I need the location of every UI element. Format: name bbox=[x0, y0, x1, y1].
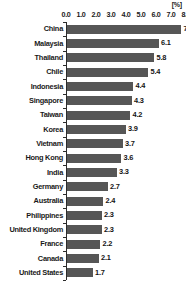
bar-value-label: 2.4 bbox=[106, 197, 116, 205]
bar-row: 2.7 bbox=[66, 182, 186, 191]
bar-row: 3.7 bbox=[66, 139, 186, 148]
bar-row: 4.2 bbox=[66, 111, 186, 120]
category-label: Malaysia bbox=[34, 40, 63, 48]
bar bbox=[67, 182, 108, 191]
bar-value-label: 5.8 bbox=[157, 54, 167, 62]
bar bbox=[67, 254, 99, 263]
y-axis-tick-mark bbox=[63, 79, 66, 80]
bar bbox=[67, 168, 117, 177]
bar bbox=[67, 268, 93, 277]
category-label: Taiwan bbox=[40, 111, 63, 119]
category-label: Philippines bbox=[26, 212, 63, 220]
bar bbox=[67, 211, 102, 220]
category-label: Korea bbox=[43, 126, 63, 134]
bar-value-label: 6.1 bbox=[161, 39, 171, 47]
bar-chart: [%] 0.01.02.03.04.05.06.07.08.0 7.66.15.… bbox=[0, 0, 186, 288]
x-tick-label: 7.0 bbox=[166, 10, 175, 19]
y-axis-tick-mark bbox=[63, 223, 66, 224]
y-axis-tick-mark bbox=[63, 122, 66, 123]
bar-value-label: 5.4 bbox=[151, 68, 161, 76]
bar-value-label: 4.2 bbox=[133, 111, 143, 119]
y-axis-tick-mark bbox=[63, 51, 66, 52]
category-label: United States bbox=[19, 269, 63, 277]
y-axis-tick-mark bbox=[63, 108, 66, 109]
bar-row: 3.3 bbox=[66, 168, 186, 177]
category-label: China bbox=[44, 25, 63, 33]
bar-value-label: 2.7 bbox=[110, 183, 120, 191]
category-label: Australia bbox=[34, 197, 63, 205]
bar-value-label: 3.9 bbox=[128, 125, 138, 133]
bar-row: 4.3 bbox=[66, 96, 186, 105]
bar-row: 6.1 bbox=[66, 39, 186, 48]
category-label: Canada bbox=[38, 255, 63, 263]
bar-row: 5.8 bbox=[66, 53, 186, 62]
category-label: Vietnam bbox=[36, 140, 63, 148]
x-tick-label: 4.0 bbox=[121, 10, 130, 19]
category-label: Thailand bbox=[35, 54, 63, 62]
y-axis-tick-mark bbox=[63, 266, 66, 267]
category-label: India bbox=[47, 169, 63, 177]
bar-value-label: 2.2 bbox=[103, 240, 113, 248]
y-axis-tick-mark bbox=[63, 137, 66, 138]
bar-row: 1.7 bbox=[66, 268, 186, 277]
bar-row: 2.2 bbox=[66, 240, 186, 249]
x-tick-label: 2.0 bbox=[91, 10, 100, 19]
y-axis-tick-mark bbox=[63, 208, 66, 209]
y-axis-tick-mark bbox=[63, 194, 66, 195]
bar bbox=[67, 96, 132, 105]
y-axis-tick-mark bbox=[63, 65, 66, 66]
bar bbox=[67, 225, 102, 234]
x-tick-label: 5.0 bbox=[136, 10, 145, 19]
bar-row: 7.6 bbox=[66, 25, 186, 34]
category-label: United Kingdom bbox=[9, 226, 63, 234]
bar-row: 4.4 bbox=[66, 82, 186, 91]
bar-value-label: 2.1 bbox=[101, 254, 111, 262]
category-label: Singapore bbox=[29, 97, 63, 105]
bar-row: 5.4 bbox=[66, 68, 186, 77]
bar-row: 3.6 bbox=[66, 154, 186, 163]
bar bbox=[67, 240, 100, 249]
bar-row: 3.9 bbox=[66, 125, 186, 134]
bar-value-label: 3.7 bbox=[125, 140, 135, 148]
axis-unit-label: [%] bbox=[172, 0, 182, 9]
bar-row: 2.1 bbox=[66, 254, 186, 263]
bar-value-label: 7.6 bbox=[184, 25, 187, 33]
bar bbox=[67, 53, 154, 62]
bar-value-label: 3.3 bbox=[119, 168, 129, 176]
plot-area: 7.66.15.85.44.44.34.23.93.73.63.32.72.42… bbox=[66, 22, 186, 280]
category-label: Hong Kong bbox=[25, 154, 63, 162]
bar bbox=[67, 111, 130, 120]
bar bbox=[67, 154, 121, 163]
y-axis-tick-mark bbox=[63, 180, 66, 181]
bar bbox=[67, 25, 181, 34]
x-tick-label: 1.0 bbox=[76, 10, 85, 19]
y-axis-tick-mark bbox=[63, 251, 66, 252]
bar-value-label: 2.3 bbox=[104, 211, 114, 219]
bar bbox=[67, 197, 103, 206]
y-axis-tick-mark bbox=[63, 151, 66, 152]
y-axis-tick-mark bbox=[63, 36, 66, 37]
category-label: Germany bbox=[33, 183, 63, 191]
category-label: France bbox=[40, 240, 63, 248]
bar bbox=[67, 139, 123, 148]
bar-row: 2.3 bbox=[66, 211, 186, 220]
bar bbox=[67, 125, 126, 134]
category-label: Indonesia bbox=[31, 83, 63, 91]
y-axis-tick-mark bbox=[63, 22, 66, 23]
y-axis-tick-mark bbox=[63, 94, 66, 95]
x-tick-label: 3.0 bbox=[106, 10, 115, 19]
bar bbox=[67, 68, 148, 77]
x-tick-label: 0.0 bbox=[61, 10, 70, 19]
x-axis-tick-labels: 0.01.02.03.04.05.06.07.08.0 bbox=[0, 10, 186, 20]
x-tick-label: 8.0 bbox=[181, 10, 186, 19]
y-axis-tick-mark bbox=[63, 165, 66, 166]
y-axis-tick-mark bbox=[63, 280, 66, 281]
bar-value-label: 2.3 bbox=[104, 226, 114, 234]
bar bbox=[67, 82, 133, 91]
x-tick-label: 6.0 bbox=[151, 10, 160, 19]
bar-value-label: 4.4 bbox=[136, 82, 146, 90]
bar bbox=[67, 39, 159, 48]
bar-value-label: 1.7 bbox=[95, 269, 105, 277]
bar-value-label: 4.3 bbox=[134, 97, 144, 105]
category-label: Chile bbox=[46, 68, 63, 76]
